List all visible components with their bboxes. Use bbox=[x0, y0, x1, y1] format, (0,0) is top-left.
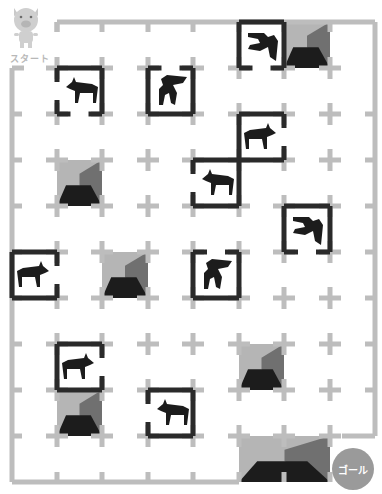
goal-label: ゴール bbox=[338, 462, 368, 477]
pit-icon bbox=[102, 252, 148, 298]
pit-icon bbox=[284, 22, 330, 68]
dog-icon bbox=[66, 77, 98, 103]
start-marker[interactable]: スタート bbox=[6, 4, 50, 64]
dog-cage bbox=[57, 68, 102, 114]
dog-icon bbox=[17, 261, 49, 287]
dog-icon bbox=[62, 353, 94, 379]
dog-cage bbox=[12, 252, 57, 298]
dog-cage bbox=[239, 114, 284, 160]
dog-icon bbox=[204, 259, 232, 289]
dog-cage bbox=[148, 68, 193, 114]
dog-icon bbox=[159, 75, 187, 105]
dog-cage bbox=[284, 206, 330, 252]
dog-icon bbox=[202, 169, 234, 195]
pit-icon bbox=[239, 344, 284, 390]
dog-icon bbox=[157, 399, 189, 425]
pit-icon bbox=[57, 160, 102, 206]
dog-cage bbox=[193, 252, 239, 298]
dog-icon bbox=[244, 123, 276, 149]
start-label: スタート bbox=[10, 52, 50, 65]
goal-marker[interactable]: ゴール bbox=[332, 448, 374, 490]
maze-board bbox=[0, 0, 382, 494]
dog-cage bbox=[148, 390, 193, 436]
dog-cage bbox=[239, 22, 284, 68]
dog-icon bbox=[248, 33, 278, 61]
pit-icon bbox=[57, 390, 102, 436]
dog-icon bbox=[293, 217, 323, 245]
pig-icon bbox=[6, 4, 46, 52]
dog-cage bbox=[57, 344, 102, 390]
dog-cage bbox=[193, 160, 239, 206]
